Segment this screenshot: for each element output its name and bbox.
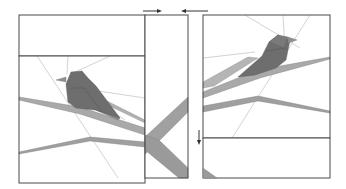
right-bottom-block (203, 138, 330, 178)
right-bird-block (203, 15, 330, 138)
right-panel (203, 15, 330, 178)
left-top-block (19, 15, 145, 56)
left-panel (19, 15, 145, 183)
arrow-right-icon (143, 9, 162, 13)
left-bird-block (19, 56, 145, 183)
center-strip (145, 15, 188, 178)
arrow-left-icon (181, 9, 208, 13)
arrow-down-icon (197, 130, 201, 145)
pattern-diagram (0, 0, 346, 189)
